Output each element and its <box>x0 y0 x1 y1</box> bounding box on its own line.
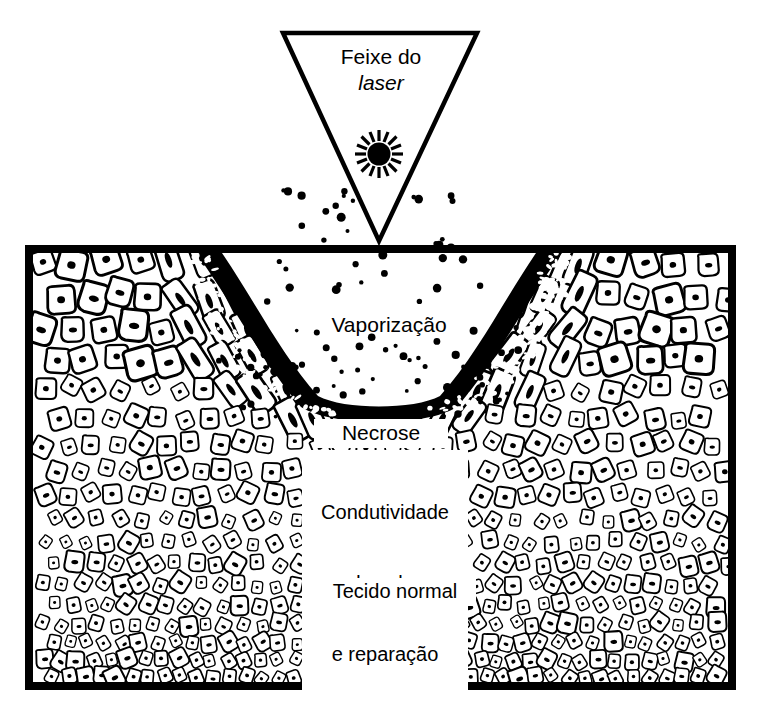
beam-label-line1: Feixe do <box>341 45 422 68</box>
figure-canvas: Feixe do laser Vaporização Necrose Condu… <box>0 0 758 715</box>
beam-label-line2: laser <box>296 70 466 96</box>
label-normal-tissue: Tecido normal <box>314 578 476 606</box>
label-heat-conduction-line1: Condutividade <box>308 501 462 525</box>
beam-label: Feixe do laser <box>296 44 466 97</box>
laser-burst-icon <box>355 130 403 178</box>
label-heat-conduction-line3: e reparação <box>308 643 462 667</box>
label-vaporization: Vaporização <box>306 313 472 338</box>
label-necrosis: Necrose <box>314 419 448 448</box>
